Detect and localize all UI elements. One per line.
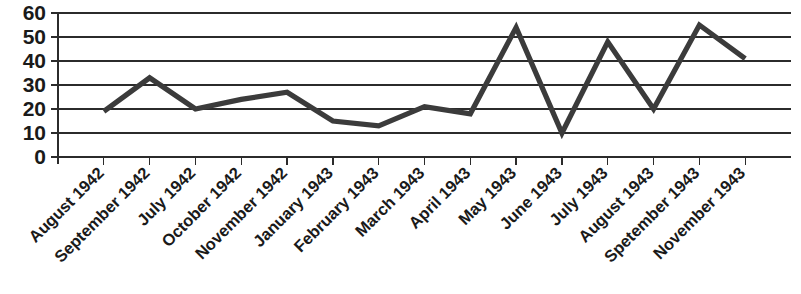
- line-chart: 0102030405060 August 1942September 1942J…: [0, 0, 801, 294]
- data-series-line: [104, 25, 745, 133]
- x-axis-tick-labels: August 1942September 1942July 1942Octobe…: [25, 163, 748, 265]
- x-tick-label: January 1943: [249, 163, 336, 250]
- y-tick-label: 50: [23, 25, 46, 48]
- gridlines: [58, 13, 791, 133]
- y-axis-tick-marks: [51, 13, 58, 157]
- x-axis-tick-marks: [104, 157, 745, 165]
- y-tick-label: 60: [23, 1, 46, 24]
- x-tick-label: October 1942: [158, 163, 245, 250]
- y-tick-label: 20: [23, 97, 46, 120]
- y-tick-label: 30: [23, 73, 46, 96]
- y-tick-label: 40: [23, 49, 46, 72]
- chart-canvas: 0102030405060 August 1942September 1942J…: [0, 0, 801, 294]
- y-axis-tick-labels: 0102030405060: [23, 1, 46, 168]
- y-tick-label: 0: [34, 145, 46, 168]
- y-tick-label: 10: [23, 121, 46, 144]
